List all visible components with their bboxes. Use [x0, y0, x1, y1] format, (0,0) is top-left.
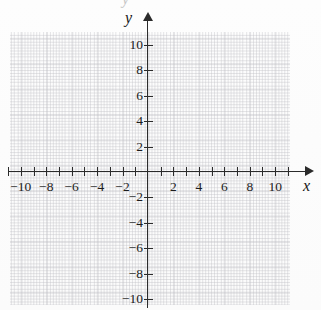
- y-tick-label: 4: [136, 114, 143, 128]
- paper-background: [0, 0, 321, 310]
- y-tick-label: 10: [130, 38, 144, 52]
- x-axis-tick: [288, 167, 289, 176]
- x-tick-label: 4: [196, 180, 203, 194]
- x-tick-label: −6: [64, 180, 78, 194]
- x-axis-tick: [123, 167, 124, 176]
- y-tick-label: −10: [122, 292, 143, 306]
- x-axis-tick: [84, 167, 85, 176]
- x-axis-tick: [59, 167, 60, 176]
- y-tick-label: −2: [129, 191, 143, 205]
- y-axis-tick: [144, 147, 153, 148]
- y-axis-tick: [144, 121, 153, 122]
- x-axis-tick: [110, 167, 111, 176]
- x-axis-tick: [199, 167, 200, 176]
- x-tick-label: 8: [246, 180, 253, 194]
- y-tick-label: −6: [129, 242, 143, 256]
- grid-lines: [10, 32, 290, 305]
- x-axis-tick: [250, 167, 251, 176]
- y-axis-tick: [144, 299, 153, 300]
- x-axis-tick: [161, 167, 162, 176]
- y-axis-line: [147, 20, 148, 308]
- x-axis-tick: [72, 167, 73, 176]
- x-axis-tick: [21, 167, 22, 176]
- x-axis-tick: [237, 167, 238, 176]
- x-tick-label: 6: [221, 180, 228, 194]
- top-cutoff-artifact: y: [122, 0, 129, 7]
- x-tick-label: −4: [90, 180, 104, 194]
- y-axis-tick: [144, 45, 153, 46]
- y-axis-arrow-icon: [143, 12, 153, 21]
- x-axis-arrow-icon: [305, 166, 314, 176]
- y-axis-tick: [144, 96, 153, 97]
- y-tick-label: 6: [136, 89, 143, 103]
- y-axis-tick: [144, 223, 153, 224]
- x-axis-tick: [46, 167, 47, 176]
- x-tick-label: 2: [170, 180, 177, 194]
- y-tick-label: −8: [129, 267, 143, 281]
- y-axis-label: y: [125, 10, 132, 26]
- x-axis-tick: [186, 167, 187, 176]
- x-axis-tick: [8, 167, 9, 176]
- y-tick-label: −4: [129, 216, 143, 230]
- y-axis-tick: [144, 274, 153, 275]
- x-axis-tick: [275, 167, 276, 176]
- x-axis-tick: [34, 167, 35, 176]
- x-axis-tick: [212, 167, 213, 176]
- x-tick-label: 10: [268, 180, 282, 194]
- x-tick-label: −10: [10, 180, 31, 194]
- y-tick-label: 8: [136, 63, 143, 77]
- coordinate-plane-figure: y y x −10−8−6−4−2246810108642−2−4−6−8−10: [0, 0, 321, 310]
- x-axis-tick: [97, 167, 98, 176]
- y-axis-tick: [144, 248, 153, 249]
- x-axis-tick: [262, 167, 263, 176]
- y-axis-tick: [144, 70, 153, 71]
- x-axis-tick: [224, 167, 225, 176]
- x-tick-label: −8: [39, 180, 53, 194]
- x-axis-label: x: [303, 178, 310, 194]
- x-axis-tick: [135, 167, 136, 176]
- y-axis-tick: [144, 197, 153, 198]
- x-axis-tick: [173, 167, 174, 176]
- x-tick-label: −2: [115, 180, 129, 194]
- y-tick-label: 2: [136, 140, 143, 154]
